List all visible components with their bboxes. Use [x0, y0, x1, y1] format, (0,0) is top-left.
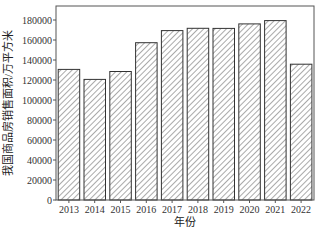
y-tick-label: 160000 — [22, 35, 52, 46]
bar-2016 — [136, 43, 158, 200]
x-tick-label: 2017 — [162, 204, 182, 215]
bar-2014 — [84, 79, 106, 200]
bar-2013 — [58, 69, 79, 200]
bar-2020 — [239, 24, 260, 200]
bar-2021 — [265, 21, 287, 200]
x-tick-label: 2019 — [214, 204, 234, 215]
x-axis: 2013201420152016201720182019202020212022 — [59, 200, 311, 215]
y-tick-label: 140000 — [22, 55, 52, 66]
y-tick-label: 0 — [47, 195, 52, 206]
bar-2015 — [110, 72, 132, 201]
y-tick-label: 20000 — [27, 175, 52, 186]
bar-2022 — [290, 64, 312, 200]
plot-area — [58, 21, 312, 200]
x-tick-label: 2014 — [85, 204, 105, 215]
x-tick-label: 2021 — [265, 204, 285, 215]
x-tick-label: 2015 — [111, 204, 131, 215]
y-tick-label: 40000 — [27, 155, 52, 166]
y-axis: 0200004000060000800001000001200001400001… — [22, 15, 56, 206]
x-tick-label: 2016 — [136, 204, 156, 215]
y-axis-title: 我国商品房销售面积/万平方米 — [1, 30, 14, 176]
bar-2019 — [213, 28, 235, 200]
y-tick-label: 100000 — [22, 95, 52, 106]
bar-chart: 0200004000060000800001000001200001400001… — [0, 0, 318, 231]
y-tick-label: 180000 — [22, 15, 52, 26]
x-tick-label: 2018 — [188, 204, 208, 215]
bar-2017 — [161, 31, 183, 200]
y-tick-label: 60000 — [27, 135, 52, 146]
x-tick-label: 2020 — [240, 204, 260, 215]
bar-2018 — [187, 28, 209, 200]
x-axis-title: 年份 — [174, 215, 196, 228]
y-tick-label: 80000 — [27, 115, 52, 126]
x-tick-label: 2022 — [291, 204, 311, 215]
x-tick-label: 2013 — [59, 204, 79, 215]
y-tick-label: 120000 — [22, 75, 52, 86]
